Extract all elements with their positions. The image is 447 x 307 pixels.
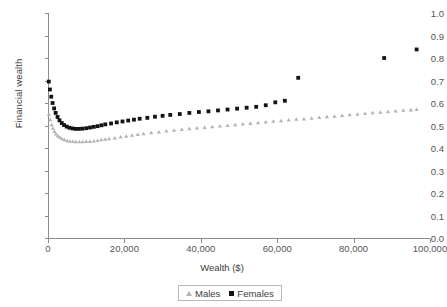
x-tick-label: 0 [45, 243, 50, 254]
chart-legend: Males Females [178, 285, 282, 301]
x-tick-label: 100,000 [413, 243, 447, 254]
y-tick-label: 0.5 [410, 120, 444, 131]
x-tick-label: 20,000 [110, 243, 139, 254]
y-tick-label: 0.8 [410, 53, 444, 64]
legend-entry-males: Males [186, 288, 220, 299]
y-axis-title: Financial wealth [13, 24, 24, 164]
x-tick-label: 80,000 [339, 243, 368, 254]
y-tick-label: 0.9 [410, 30, 444, 41]
axis-lines [45, 13, 431, 243]
legend-entry-females: Females [229, 288, 273, 299]
legend-label-females: Females [237, 288, 273, 299]
y-tick-label: 1.0 [410, 8, 444, 19]
y-tick-label: 0.2 [410, 188, 444, 199]
y-tick-label: 0.0 [410, 233, 444, 244]
legend-label-males: Males [195, 288, 220, 299]
y-tick-label: 0.3 [410, 165, 444, 176]
y-tick-label: 0.1 [410, 210, 444, 221]
x-tick-label: 60,000 [263, 243, 292, 254]
y-tick-label: 0.7 [410, 75, 444, 86]
triangle-marker-icon [186, 291, 192, 296]
y-tick-label: 0.4 [410, 143, 444, 154]
square-marker-icon [229, 291, 234, 296]
x-axis-title: Wealth ($) [0, 262, 444, 273]
series-females [47, 48, 419, 131]
x-tick-label: 40,000 [186, 243, 215, 254]
y-tick-label: 0.6 [410, 98, 444, 109]
